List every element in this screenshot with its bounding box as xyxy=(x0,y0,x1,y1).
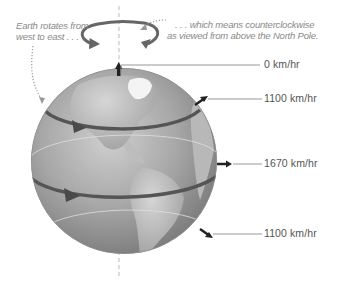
speed-label-equator: 1670 km/hr xyxy=(264,157,318,169)
diagram-graphic xyxy=(0,0,338,284)
caption-right-line2: as viewed from above the North Pole. xyxy=(167,30,338,41)
earth-rotation-diagram: Earth rotates from west to east . . . . … xyxy=(0,0,338,284)
speed-label-north-pole: 0 km/hr xyxy=(264,58,300,70)
dotted-arrow-left xyxy=(32,46,42,100)
caption-rotation-direction: Earth rotates from west to east . . . xyxy=(16,20,106,42)
caption-left-line2: west to east . . . xyxy=(16,31,106,42)
globe xyxy=(31,68,217,258)
caption-counterclockwise: . . . which means counterclockwise as vi… xyxy=(175,19,338,41)
caption-left-line1: Earth rotates from xyxy=(16,20,106,31)
speed-label-south-midlatitude: 1100 km/hr xyxy=(264,227,317,239)
speed-label-north-midlatitude: 1100 km/hr xyxy=(264,92,317,104)
caption-right-line1: . . . which means counterclockwise xyxy=(175,19,338,30)
